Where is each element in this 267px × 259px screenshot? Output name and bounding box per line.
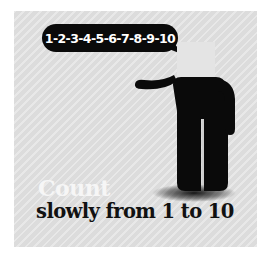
instruction-card: 1-2-3-4-5-6-7-8-9-10 Count slowly from 1… (14, 11, 257, 247)
counting-text: 1-2-3-4-5-6-7-8-9-10 (45, 31, 175, 46)
subline: slowly from 1 to 10 (36, 200, 234, 223)
speech-bubble: 1-2-3-4-5-6-7-8-9-10 (42, 24, 178, 52)
head-placeholder (177, 42, 215, 78)
headline: Count (38, 175, 110, 201)
